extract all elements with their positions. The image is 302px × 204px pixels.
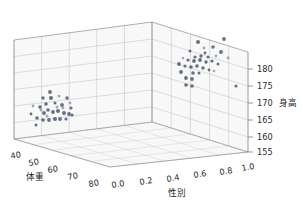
scatter3d-figure: 180 175 170 165 160 155 身高 40 50 60 70 8… xyxy=(0,0,302,204)
data-point xyxy=(219,50,223,54)
x-tick-label: 40 xyxy=(10,149,22,161)
data-point xyxy=(190,84,194,88)
data-point xyxy=(46,115,49,118)
y-tick-label: 0.4 xyxy=(166,172,181,184)
data-point xyxy=(35,116,39,120)
data-point xyxy=(46,108,50,112)
data-point xyxy=(67,112,71,116)
data-point xyxy=(204,60,207,63)
data-point xyxy=(191,71,195,75)
data-point xyxy=(190,77,194,81)
data-point xyxy=(215,55,218,58)
data-point xyxy=(184,83,188,87)
data-point xyxy=(41,118,45,122)
data-point xyxy=(213,70,216,73)
data-point xyxy=(49,96,53,100)
z-tick-label: 170 xyxy=(257,98,273,108)
data-point xyxy=(40,109,43,112)
x-axis-label: 体重 xyxy=(26,171,44,182)
data-point xyxy=(217,63,220,66)
data-point xyxy=(222,37,226,41)
data-point xyxy=(179,70,183,74)
data-point xyxy=(192,59,196,63)
data-point xyxy=(196,40,200,44)
z-tick-label: 180 xyxy=(257,64,273,74)
data-point xyxy=(35,124,38,127)
z-tick-label: 165 xyxy=(257,115,273,125)
z-axis-label: 身高 xyxy=(279,97,297,108)
axes-panes xyxy=(14,22,248,167)
data-point xyxy=(47,118,51,122)
data-point xyxy=(234,84,237,87)
plot-canvas[interactable]: 180 175 170 165 160 155 身高 40 50 60 70 8… xyxy=(0,0,302,204)
data-point xyxy=(53,117,57,121)
y-tick-label: 0.8 xyxy=(219,165,234,177)
data-point xyxy=(60,103,64,107)
data-point xyxy=(198,72,201,75)
y-tick-labels: 0.0 0.2 0.4 0.6 0.8 1.0 性別 xyxy=(111,161,256,198)
data-point xyxy=(177,62,181,66)
x-tick-label: 60 xyxy=(47,163,59,175)
data-point xyxy=(32,105,35,108)
data-point xyxy=(207,56,210,59)
z-tick-label: 155 xyxy=(257,147,273,157)
data-point xyxy=(210,59,213,62)
x-tick-label: 70 xyxy=(67,170,79,182)
data-point xyxy=(204,52,207,55)
y-axis-label: 性別 xyxy=(168,187,186,198)
data-point xyxy=(186,58,189,61)
data-point xyxy=(58,95,61,98)
z-tick-labels: 180 175 170 165 160 155 身高 xyxy=(257,64,297,157)
data-point xyxy=(211,45,214,48)
y-tick-label: 0.0 xyxy=(111,178,126,190)
data-point xyxy=(69,106,72,109)
data-point xyxy=(38,105,42,109)
data-point xyxy=(56,109,60,113)
data-point xyxy=(189,65,193,69)
data-point xyxy=(201,66,204,69)
data-point xyxy=(199,54,202,57)
data-point xyxy=(69,102,72,105)
data-point xyxy=(64,117,67,120)
data-point xyxy=(227,57,230,60)
data-point xyxy=(62,107,65,110)
z-tick-label: 160 xyxy=(257,132,273,142)
y-tick-label: 1.0 xyxy=(241,161,256,173)
data-point xyxy=(42,111,46,115)
data-point xyxy=(183,64,186,67)
data-point xyxy=(65,96,68,99)
data-point xyxy=(203,47,206,50)
data-point xyxy=(44,102,48,106)
data-point xyxy=(184,76,188,80)
x-tick-label: 80 xyxy=(88,177,100,189)
data-point xyxy=(58,117,62,121)
data-point xyxy=(195,64,199,68)
tickmarks xyxy=(248,69,253,152)
data-point xyxy=(62,111,66,115)
data-point xyxy=(30,113,33,116)
data-point xyxy=(41,96,44,99)
data-point xyxy=(51,110,55,114)
data-point xyxy=(70,113,73,116)
data-point xyxy=(208,69,211,72)
data-point xyxy=(54,102,57,105)
data-point xyxy=(182,57,185,60)
data-point xyxy=(48,90,52,94)
z-tick-label: 175 xyxy=(257,81,273,91)
y-tick-label: 0.6 xyxy=(193,168,208,180)
data-point xyxy=(189,50,192,53)
data-point xyxy=(198,58,202,62)
y-tick-label: 0.2 xyxy=(139,175,154,187)
data-point xyxy=(56,106,59,109)
pane-left-wall xyxy=(14,22,152,139)
data-point xyxy=(193,55,196,58)
x-tick-label: 50 xyxy=(28,156,40,168)
